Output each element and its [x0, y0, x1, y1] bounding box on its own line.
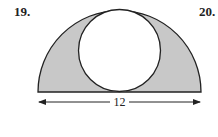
dimension-label: 12 — [114, 95, 126, 109]
inscribed-circle — [79, 10, 161, 92]
semicircle-figure: 12 — [0, 0, 218, 137]
